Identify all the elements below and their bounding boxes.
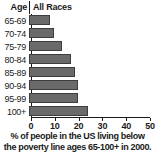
age-category-label: 85-89 (0, 68, 29, 78)
plot-area: 65-6970-7475-7980-8485-8990-9495-99100+ (0, 14, 155, 118)
bar (29, 67, 75, 77)
x-axis-tick-label: 40 (116, 121, 136, 131)
bar-track (29, 40, 155, 53)
x-axis-line (31, 117, 150, 118)
x-axis-tick-label: 10 (45, 121, 65, 131)
bar-track (29, 27, 155, 40)
caption-line-2: the poverty line ages 65-100+ in 2000. (0, 142, 155, 153)
bar (29, 106, 88, 116)
bar-row: 75-79 (0, 40, 155, 53)
bar-row: 85-89 (0, 66, 155, 79)
age-category-label: 70-74 (0, 29, 29, 39)
bar-row: 90-94 (0, 79, 155, 92)
age-category-label: 65-69 (0, 16, 29, 26)
age-category-label: 100+ (0, 107, 29, 117)
bar-row: 70-74 (0, 27, 155, 40)
bar (29, 15, 50, 25)
series-column-header: All Races (30, 2, 72, 12)
caption-line-1: % of people in the US living below (0, 131, 155, 142)
bar (29, 28, 54, 38)
age-category-label: 75-79 (0, 42, 29, 52)
bar (29, 80, 78, 90)
age-category-label: 95-99 (0, 94, 29, 104)
bar (29, 93, 78, 103)
bar-row: 95-99 (0, 92, 155, 105)
age-category-label: 80-84 (0, 55, 29, 65)
age-column-header: Age (0, 2, 29, 12)
x-axis-tick-label: 50 (140, 121, 155, 131)
bar-track (29, 14, 155, 27)
x-axis-tick-label: 20 (69, 121, 89, 131)
bar-track (29, 92, 155, 105)
x-axis-tick-label: 0 (21, 121, 41, 131)
bar-row: 80-84 (0, 53, 155, 66)
x-axis-tick-label: 30 (92, 121, 112, 131)
chart-caption: % of people in the US living below the p… (0, 131, 155, 153)
bar (29, 54, 71, 64)
chart-header: Age All Races (0, 0, 155, 14)
bar-track (29, 53, 155, 66)
bar (29, 41, 62, 51)
poverty-by-age-bar-chart: Age All Races 65-6970-7475-7980-8485-899… (0, 0, 155, 155)
bar-row: 65-69 (0, 14, 155, 27)
bar-track (29, 66, 155, 79)
bar-track (29, 79, 155, 92)
age-category-label: 90-94 (0, 81, 29, 91)
